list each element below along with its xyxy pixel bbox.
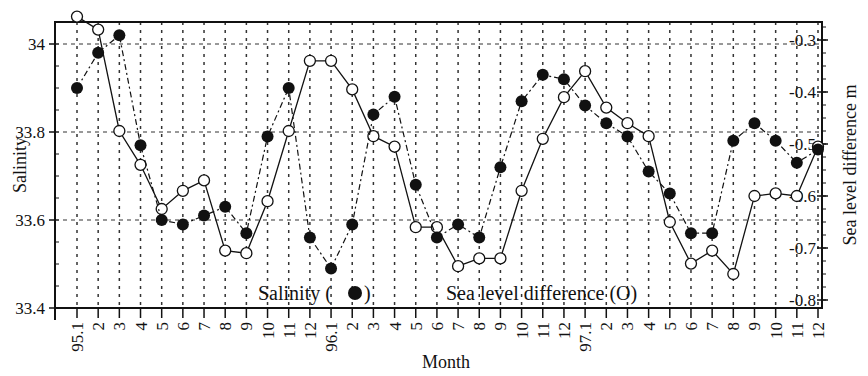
salinity-point bbox=[304, 232, 316, 244]
sea-level-point bbox=[791, 191, 802, 202]
x-tick-label: 10 bbox=[259, 322, 278, 339]
salinity-point bbox=[770, 135, 782, 147]
salinity-point bbox=[452, 218, 464, 230]
x-tick-label: 6 bbox=[174, 322, 193, 331]
x-tick-label: 5 bbox=[153, 322, 172, 331]
salinity-point bbox=[262, 130, 274, 142]
salinity-point bbox=[791, 157, 803, 169]
salinity-point bbox=[219, 201, 231, 213]
sea-level-point bbox=[304, 55, 315, 66]
x-tick-label: 7 bbox=[703, 322, 722, 331]
salinity-point bbox=[410, 179, 422, 191]
legend-salinity-close: ) bbox=[364, 282, 371, 305]
sea-level-point bbox=[114, 126, 125, 137]
y-tick-label: 34 bbox=[28, 35, 46, 54]
salinity-point bbox=[325, 262, 337, 274]
sea-level-point bbox=[262, 196, 273, 207]
x-axis-title: Month bbox=[422, 352, 470, 372]
sea-level-point bbox=[495, 253, 506, 264]
sea-level-point bbox=[537, 133, 548, 144]
sea-level-point bbox=[601, 102, 612, 113]
x-tick-label: 4 bbox=[640, 322, 659, 331]
sea-level-point bbox=[685, 258, 696, 269]
x-tick-label: 8 bbox=[724, 322, 743, 331]
x-tick-label: 96.1 bbox=[322, 322, 341, 352]
x-tick-label: 8 bbox=[216, 322, 235, 331]
salinity-point bbox=[706, 227, 718, 239]
salinity-point bbox=[113, 29, 125, 41]
salinity-point bbox=[367, 108, 379, 120]
x-tick-label: 6 bbox=[428, 322, 447, 331]
x-tick-label: 3 bbox=[618, 322, 637, 331]
x-tick-label: 3 bbox=[364, 322, 383, 331]
sea-level-point bbox=[220, 245, 231, 256]
x-tick-label: 11 bbox=[280, 322, 299, 338]
x-tick-label: 2 bbox=[343, 322, 362, 331]
sea-level-point bbox=[664, 217, 675, 228]
salinity-point bbox=[473, 232, 485, 244]
salinity-point bbox=[177, 218, 189, 230]
salinity-point bbox=[283, 82, 295, 94]
chart: 33.433.633.834 -0.3-0.4-0.5-0.6-0.7-0.8 … bbox=[0, 0, 868, 376]
sea-level-point bbox=[453, 261, 464, 272]
sea-level-point bbox=[93, 24, 104, 35]
salinity-point bbox=[812, 144, 824, 156]
salinity-point bbox=[389, 91, 401, 103]
y-tick-label: 33.4 bbox=[15, 299, 45, 318]
sea-level-point bbox=[241, 248, 252, 259]
sea-level-point bbox=[347, 84, 358, 95]
sea-level-point bbox=[283, 126, 294, 137]
x-tick-label: 5 bbox=[661, 322, 680, 331]
sea-level-point bbox=[622, 118, 633, 129]
sea-level-point bbox=[749, 191, 760, 202]
salinity-series bbox=[71, 29, 824, 274]
x-tick-label: 5 bbox=[407, 322, 426, 331]
grid bbox=[55, 22, 822, 308]
salinity-point bbox=[600, 117, 612, 129]
x-tick-label: 4 bbox=[386, 322, 405, 331]
salinity-point bbox=[494, 161, 506, 173]
y2-tick-label: -0.7 bbox=[789, 239, 816, 258]
x-tick-label: 9 bbox=[745, 322, 764, 331]
sea-level-point bbox=[177, 185, 188, 196]
x-tick-label: 4 bbox=[132, 322, 151, 331]
sea-level-point bbox=[770, 188, 781, 199]
salinity-point bbox=[537, 69, 549, 81]
legend-sea-level-label: Sea level difference (O) bbox=[446, 282, 637, 305]
sea-level-point bbox=[72, 11, 83, 22]
salinity-point bbox=[156, 214, 168, 226]
sea-level-point bbox=[707, 245, 718, 256]
sea-level-point bbox=[389, 141, 400, 152]
sea-level-point bbox=[326, 55, 337, 66]
salinity-point bbox=[685, 227, 697, 239]
salinity-point bbox=[431, 232, 443, 244]
y-axis-title: Salinity bbox=[10, 137, 30, 193]
x-tick-label: 12 bbox=[555, 322, 574, 339]
salinity-point bbox=[240, 227, 252, 239]
sea-level-point bbox=[580, 66, 591, 77]
salinity-point bbox=[748, 117, 760, 129]
x-tick-label: 9 bbox=[491, 322, 510, 331]
x-tick-label: 2 bbox=[89, 322, 108, 331]
x-tick-label: 10 bbox=[767, 322, 786, 339]
salinity-point bbox=[92, 47, 104, 59]
legend-filled-circle-icon bbox=[348, 286, 362, 300]
salinity-point bbox=[198, 210, 210, 222]
salinity-point bbox=[558, 73, 570, 85]
salinity-point bbox=[643, 166, 655, 178]
sea-level-point bbox=[516, 185, 527, 196]
salinity-point bbox=[579, 100, 591, 112]
y2-tick-label: -0.4 bbox=[789, 83, 816, 102]
y2-tick-label: -0.3 bbox=[789, 31, 816, 50]
sea-level-point bbox=[558, 92, 569, 103]
sea-level-series bbox=[72, 11, 824, 279]
sea-level-point bbox=[410, 222, 421, 233]
salinity-point bbox=[135, 139, 147, 151]
legend-salinity-label: Salinity ( bbox=[258, 282, 332, 305]
y-tick-label: 33.6 bbox=[15, 211, 45, 230]
x-axis: 95.12345678910111296.12345678910111297.1… bbox=[55, 308, 828, 352]
x-tick-label: 95.1 bbox=[68, 322, 87, 352]
x-tick-label: 2 bbox=[597, 322, 616, 331]
salinity-point bbox=[727, 135, 739, 147]
x-tick-label: 97.1 bbox=[576, 322, 595, 352]
